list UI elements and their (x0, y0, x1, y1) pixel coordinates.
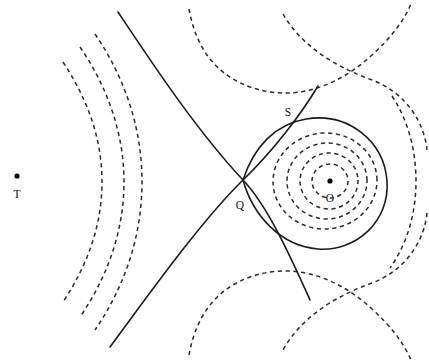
separatrix-curves-group (110, 12, 387, 347)
separatrix-right-lobe (243, 118, 387, 249)
point-label-S: S (285, 107, 291, 119)
point-label-T: T (13, 189, 20, 201)
point-label-Q: Q (236, 200, 244, 212)
outer-contour-3-upper (189, 4, 411, 93)
mass-point-dot-O (327, 178, 332, 183)
inner-oval-4 (270, 129, 380, 232)
inner-equipotential-ovals-group (270, 129, 380, 232)
figure-canvas (0, 0, 429, 364)
point-label-O: O (326, 193, 334, 205)
outer-equipotential-contours-group (189, 4, 427, 360)
left-arc-3 (63, 62, 102, 302)
outer-contour-2-upper (283, 14, 427, 150)
mass-point-dot-T (14, 173, 19, 178)
mass-points-group (14, 173, 332, 183)
contour-figure: T O Q S (0, 0, 429, 364)
outer-contour-1 (390, 96, 416, 268)
outer-contour-2-lower (283, 213, 427, 350)
left-equipotential-arcs-group (63, 34, 142, 330)
outer-contour-3-lower (189, 271, 411, 360)
